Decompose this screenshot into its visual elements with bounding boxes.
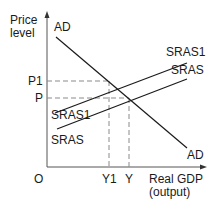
sras1-label-right: SRAS1	[166, 46, 205, 59]
price-p-label: P	[35, 92, 43, 105]
origin-label: O	[34, 173, 43, 186]
price-p1-label: P1	[28, 75, 43, 88]
sras1-curve	[55, 63, 187, 113]
y-axis-arrow-icon	[45, 11, 50, 18]
sras-label-right: SRAS	[171, 64, 204, 77]
output-y-label: Y	[125, 173, 133, 186]
sras-label-left: SRAS	[51, 134, 84, 147]
y-axis-label-line2: level	[10, 27, 35, 40]
output-y1-label: Y1	[102, 173, 117, 186]
sras1-label-left: SRAS1	[51, 109, 90, 122]
x-axis-label-line2: (output)	[149, 186, 190, 199]
x-axis-arrow-icon	[200, 165, 207, 170]
ad-label-top: AD	[54, 21, 71, 34]
ad-label-bottom: AD	[187, 149, 204, 162]
